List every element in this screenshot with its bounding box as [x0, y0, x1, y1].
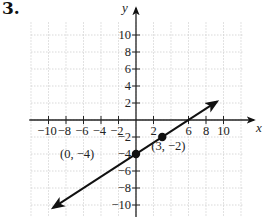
axes — [29, 8, 254, 217]
y-tick-label: −6 — [118, 164, 131, 178]
y-tick-label: 2 — [125, 96, 131, 110]
point-label: (3, −2) — [151, 139, 185, 153]
y-tick-label: −8 — [118, 181, 131, 195]
grid — [31, 22, 244, 216]
x-tick-label: 6 — [185, 124, 191, 138]
y-tick-label: 6 — [125, 62, 131, 76]
y-axis-label: y — [120, 0, 128, 15]
coordinate-plane: xy−10−8−6−4−226810108642−2−4−6−8−10 (0, … — [0, 0, 264, 217]
point-marker — [132, 150, 140, 158]
y-tick-label: 10 — [119, 28, 132, 42]
x-tick-label: −4 — [93, 124, 107, 138]
x-axis-label: x — [255, 120, 262, 135]
y-tick-label: −10 — [111, 198, 131, 212]
x-tick-label: 2 — [150, 124, 156, 138]
tick-labels: xy−10−8−6−4−226810108642−2−4−6−8−10 — [37, 0, 262, 212]
x-tick-label: −10 — [37, 124, 57, 138]
x-tick-label: −8 — [58, 124, 71, 138]
y-tick-label: 8 — [125, 45, 131, 59]
y-tick-label: −2 — [118, 130, 131, 144]
point-label: (0, −4) — [60, 147, 94, 161]
x-tick-label: 8 — [203, 124, 209, 138]
x-tick-label: −6 — [75, 124, 88, 138]
y-tick-label: 4 — [125, 79, 132, 93]
x-tick-label: 10 — [217, 124, 230, 138]
